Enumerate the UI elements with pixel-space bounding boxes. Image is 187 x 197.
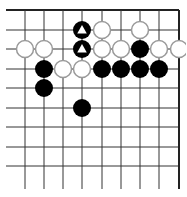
white-stone bbox=[55, 61, 72, 78]
go-board[interactable] bbox=[0, 0, 186, 197]
black-stone bbox=[73, 21, 91, 39]
black-stone bbox=[150, 60, 168, 78]
black-stone bbox=[131, 60, 149, 78]
white-stone bbox=[132, 22, 149, 39]
white-stone bbox=[74, 61, 91, 78]
white-stone bbox=[171, 41, 187, 58]
white-stone bbox=[94, 41, 111, 58]
black-stone bbox=[93, 60, 111, 78]
white-stone bbox=[94, 22, 111, 39]
white-stone bbox=[113, 41, 130, 58]
white-stone bbox=[151, 41, 168, 58]
black-stone bbox=[73, 99, 91, 117]
white-stone bbox=[17, 41, 34, 58]
black-stone bbox=[73, 40, 91, 58]
black-stone bbox=[131, 40, 149, 58]
black-stone bbox=[112, 60, 130, 78]
board-grid bbox=[6, 10, 179, 189]
white-stone bbox=[36, 41, 53, 58]
black-stone bbox=[35, 79, 53, 97]
stones-layer bbox=[17, 21, 187, 117]
black-stone bbox=[35, 60, 53, 78]
